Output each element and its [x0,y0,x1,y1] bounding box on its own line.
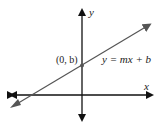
intercept-label: (0, b) [56,54,78,66]
y-axis-label: y [88,6,94,18]
coordinate-diagram: y x (0, b) y = mx + b [0,0,163,129]
line-lower-arrow-icon [10,99,21,108]
y-intercept-point [80,64,84,68]
equation-label: y = mx + b [101,53,152,65]
x-axis-label: x [143,80,149,92]
y-axis-down-arrow-icon [78,114,86,122]
x-axis-left-arrow-icon [9,91,17,99]
